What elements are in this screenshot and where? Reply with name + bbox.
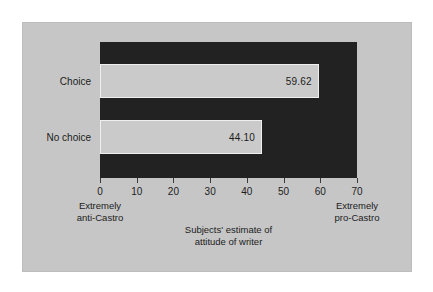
axis-anchor-high: Extremelypro-Castro	[335, 200, 380, 223]
bar-value-choice: 59.62	[286, 76, 312, 87]
x-tick	[357, 178, 358, 183]
bar-choice: 59.62	[100, 64, 319, 98]
plot-area: Choice 59.62 No choice 44.10	[100, 42, 357, 178]
x-axis-title-line-1: Subjects' estimate of	[100, 224, 357, 236]
bar-value-no-choice: 44.10	[229, 132, 255, 143]
category-label-no-choice: No choice	[47, 132, 91, 143]
x-axis: 010203040506070Extremelyanti-CastroExtre…	[100, 178, 357, 179]
figure-panel: Choice 59.62 No choice 44.10 01020304050…	[22, 22, 412, 272]
x-tick-label: 0	[97, 186, 103, 197]
x-tick-label: 10	[131, 186, 142, 197]
axis-anchor-line: anti-Castro	[77, 212, 123, 224]
x-tick	[210, 178, 211, 183]
x-tick	[320, 178, 321, 183]
x-tick-label: 70	[351, 186, 362, 197]
x-tick-label: 60	[315, 186, 326, 197]
x-tick-label: 50	[278, 186, 289, 197]
x-tick	[247, 178, 248, 183]
x-tick-label: 30	[205, 186, 216, 197]
bar-no-choice: 44.10	[100, 120, 262, 154]
axis-anchor-line: Extremely	[77, 200, 123, 212]
x-tick-label: 20	[168, 186, 179, 197]
x-tick	[100, 178, 101, 183]
x-tick	[137, 178, 138, 183]
x-axis-title-line-2: attitude of writer	[100, 236, 357, 248]
axis-anchor-low: Extremelyanti-Castro	[77, 200, 123, 223]
x-axis-title: Subjects' estimate of attitude of writer	[100, 224, 357, 248]
x-tick	[284, 178, 285, 183]
category-label-choice: Choice	[60, 76, 91, 87]
x-tick-label: 40	[241, 186, 252, 197]
axis-anchor-line: Extremely	[335, 200, 380, 212]
x-tick	[173, 178, 174, 183]
axis-anchor-line: pro-Castro	[335, 212, 380, 224]
